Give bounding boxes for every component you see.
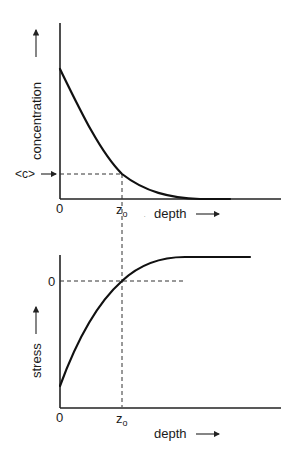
top-z0-label: zo [116,202,128,219]
stress-curve [60,257,250,386]
bottom-panel: stress 0 0 zo depth [29,255,281,441]
top-origin-label: 0 [56,201,63,216]
bottom-z0-label: zo [116,411,128,428]
mean-concentration-label: <c> [15,167,35,181]
bottom-origin-label: 0 [56,410,63,425]
zero-stress-label: 0 [48,274,55,289]
diagram-canvas: concentration <c> 0 zo . depth stress 0 … [0,0,293,460]
top-x-axis-label: depth [154,206,187,221]
top-y-axis-label: concentration [29,82,44,160]
top-panel: concentration <c> 0 zo . depth [15,23,281,407]
bottom-x-axis-label: depth [154,426,187,441]
bottom-y-axis-label: stress [29,343,44,378]
concentration-curve [60,69,230,199]
top-x-axis-dot: . [144,212,145,218]
